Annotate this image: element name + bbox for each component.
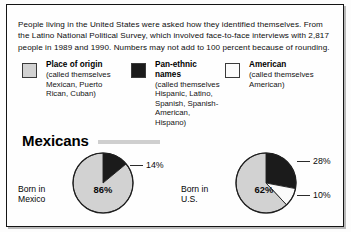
legend-item-subtitle: (called themselves Hispanic, Latino, Spa… (155, 80, 223, 128)
pie-center-value: 62% (233, 184, 295, 195)
legend-item-title: American (249, 60, 331, 70)
pie-chart-born-in-us: Born in U.S. 62% 28% 10% (175, 148, 338, 224)
pie-label-line1: Born in (181, 184, 208, 194)
chart-legend: Place of origin (called themselves Mexic… (18, 60, 334, 126)
group-heading: Mexicans (22, 133, 89, 149)
legend-item-text: American (called themselves American) (249, 60, 331, 89)
charts-row: Born in Mexico 86% 14% Born in U.S. 62% … (12, 148, 338, 224)
legend-item-title: Place of origin (46, 60, 126, 70)
callout-leader-line-icon (130, 165, 143, 166)
pie-chart-label: Born in U.S. (181, 184, 237, 204)
callout-leader-line-icon (297, 161, 310, 162)
callout-value: 10% (313, 190, 331, 200)
legend-item-subtitle: (called themselves Mexican, Puerto Rican… (46, 70, 126, 99)
legend-item-title: Pan-ethnic names (155, 60, 223, 79)
legend-item-text: Place of origin (called themselves Mexic… (46, 60, 126, 99)
callout-leader-line-icon (297, 195, 310, 196)
group-heading-rule (98, 140, 160, 144)
legend-item-pan-ethnic-names: Pan-ethnic names (called themselves Hisp… (131, 60, 223, 128)
legend-item-subtitle: (called themselves American) (249, 70, 331, 89)
pie-callout-28: 28% (297, 156, 331, 166)
legend-item-place-of-origin: Place of origin (called themselves Mexic… (22, 60, 126, 99)
chart-figure: People living in the United States were … (0, 0, 351, 232)
callout-value: 14% (146, 160, 164, 170)
pie-chart-born-in-mexico: Born in Mexico 86% 14% (12, 148, 175, 224)
pie-callout-14: 14% (130, 160, 164, 170)
legend-swatch-american-icon (225, 63, 240, 78)
pie-graphic (72, 152, 134, 214)
legend-swatch-pan-ethnic-names-icon (131, 63, 146, 78)
legend-item-text: Pan-ethnic names (called themselves Hisp… (155, 60, 223, 128)
pie-label-line1: Born in (18, 184, 45, 194)
callout-value: 28% (313, 156, 331, 166)
pie-center-value: 86% (72, 184, 134, 195)
pie-label-line2: Mexico (18, 194, 45, 204)
intro-paragraph: People living in the United States were … (18, 19, 334, 53)
pie-callout-10: 10% (297, 190, 331, 200)
pie-label-line2: U.S. (181, 194, 198, 204)
legend-item-american: American (called themselves American) (225, 60, 331, 89)
pie-graphic (235, 152, 297, 214)
pie-chart-label: Born in Mexico (18, 184, 74, 204)
legend-swatch-place-of-origin-icon (22, 63, 37, 78)
